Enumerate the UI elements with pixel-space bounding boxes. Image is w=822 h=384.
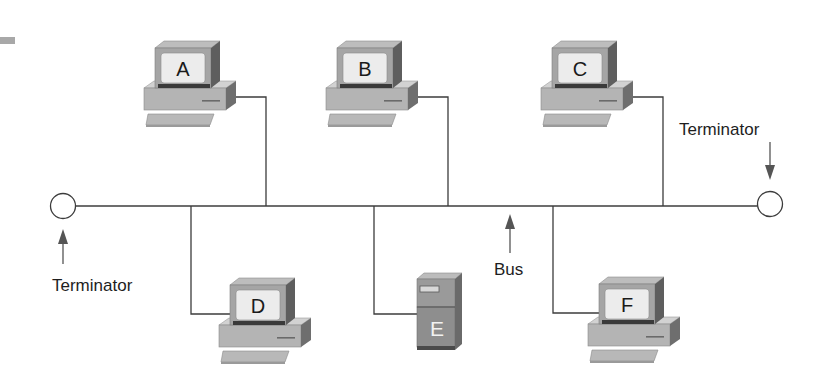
computer-icon: [326, 41, 418, 127]
node-f-label: F: [621, 294, 633, 316]
computer-icon: [588, 277, 680, 363]
cable-node-e: [374, 206, 417, 314]
terminator-left-arrow-icon: [58, 229, 68, 264]
cable-node-a: [236, 97, 266, 206]
workstation-b[interactable]: B: [326, 41, 418, 127]
computer-icon: [144, 41, 236, 127]
workstation-c[interactable]: C: [541, 41, 633, 127]
workstation-d[interactable]: D: [219, 278, 311, 364]
terminator-right-icon: [758, 192, 783, 217]
terminator-left-icon: [51, 194, 76, 219]
bus-label: Bus: [494, 260, 523, 279]
workstation-a[interactable]: A: [144, 41, 236, 127]
node-c-label: C: [573, 58, 587, 80]
computer-icon: [219, 278, 311, 364]
bus-arrow-icon: [505, 214, 515, 253]
node-b-label: B: [358, 58, 371, 80]
terminator-right-arrow-icon: [765, 142, 775, 180]
cable-node-f: [553, 206, 600, 313]
cable-node-c: [633, 97, 663, 206]
server-e[interactable]: E: [417, 273, 462, 350]
computer-icon: [541, 41, 633, 127]
workstation-f[interactable]: F: [588, 277, 680, 363]
cable-node-d: [191, 206, 233, 314]
terminator-right-label: Terminator: [679, 120, 760, 139]
cable-node-b: [418, 97, 448, 206]
node-a-label: A: [176, 58, 190, 80]
bus-topology-diagram: Terminator Terminator Bus A B C D: [0, 0, 822, 384]
node-e-label: E: [430, 317, 444, 340]
node-d-label: D: [251, 295, 265, 317]
terminator-left-label: Terminator: [52, 276, 133, 295]
